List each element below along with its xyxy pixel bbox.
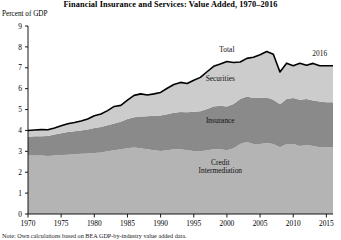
securities-label: Securities <box>206 74 235 83</box>
area-chart-svg: 0123456789 19701975198019851990199520002… <box>0 0 341 240</box>
x-tick-label: 1985 <box>120 219 135 228</box>
y-tick-label: 6 <box>18 84 22 93</box>
x-tick-label: 1975 <box>54 219 69 228</box>
y-axis-ticks: 0123456789 <box>18 22 28 219</box>
x-tick-label: 1990 <box>153 219 168 228</box>
x-tick-label: 1980 <box>87 219 102 228</box>
credit-label-line2: Intermediation <box>199 166 243 175</box>
y-tick-label: 5 <box>18 105 22 114</box>
y-tick-label: 1 <box>18 189 22 198</box>
stacked-areas <box>28 51 333 214</box>
y-tick-label: 2 <box>18 168 22 177</box>
y-tick-label: 4 <box>18 126 22 135</box>
x-tick-label: 2005 <box>253 219 268 228</box>
y-tick-label: 7 <box>18 63 22 72</box>
y-tick-label: 0 <box>18 210 22 219</box>
plot-area: 0123456789 19701975198019851990199520002… <box>0 0 341 240</box>
y-tick-label: 8 <box>18 43 22 52</box>
source-note: Note: Own calculations based on BEA GDP-… <box>2 232 341 239</box>
x-tick-label: 1970 <box>21 219 36 228</box>
x-tick-label: 2000 <box>220 219 235 228</box>
x-tick-label: 1995 <box>186 219 201 228</box>
x-axis-ticks: 1970197519801985199019952000200520102015 <box>21 214 334 228</box>
chart-figure: Financial Insurance and Services: Value … <box>0 0 341 240</box>
y-tick-label: 3 <box>18 147 22 156</box>
endpoint-year-label: 2016 <box>312 49 327 58</box>
x-tick-label: 2010 <box>286 219 301 228</box>
insurance-label: Insurance <box>206 116 235 125</box>
y-tick-label: 9 <box>18 22 22 31</box>
total-label: Total <box>219 45 234 54</box>
x-tick-label: 2015 <box>319 219 334 228</box>
